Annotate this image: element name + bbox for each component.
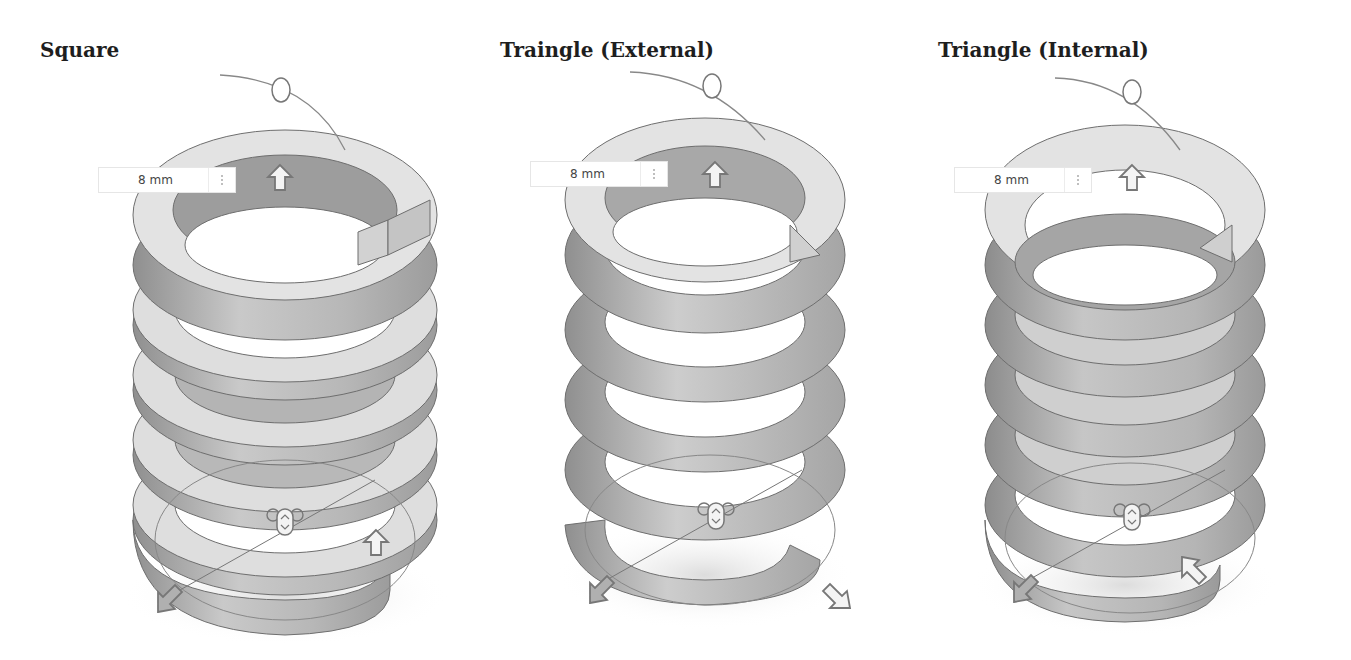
helix-viewport[interactable] (880, 0, 1351, 660)
dimension-input[interactable]: 8 mm (954, 167, 1092, 193)
rotation-handle[interactable] (703, 74, 721, 98)
dimension-input[interactable]: 8 mm (98, 167, 236, 193)
helix-body (985, 125, 1265, 622)
helix-viewport[interactable] (0, 0, 450, 660)
panel-square: Square (0, 0, 450, 660)
more-options-icon[interactable] (208, 168, 235, 192)
dimension-input[interactable]: 8 mm (530, 161, 668, 187)
panel-triangle-external: Traingle (External) (430, 0, 880, 660)
helix-body (565, 118, 845, 605)
helix-body (133, 130, 437, 635)
dimension-value: 8 mm (99, 173, 208, 187)
rotation-handle[interactable] (272, 78, 290, 102)
rotation-handle[interactable] (1123, 80, 1141, 104)
helix-viewport[interactable] (430, 0, 880, 660)
dimension-value: 8 mm (955, 173, 1064, 187)
panel-triangle-internal: Triangle (Internal) (880, 0, 1351, 660)
more-options-icon[interactable] (640, 162, 667, 186)
dimension-value: 8 mm (531, 167, 640, 181)
more-options-icon[interactable] (1064, 168, 1091, 192)
